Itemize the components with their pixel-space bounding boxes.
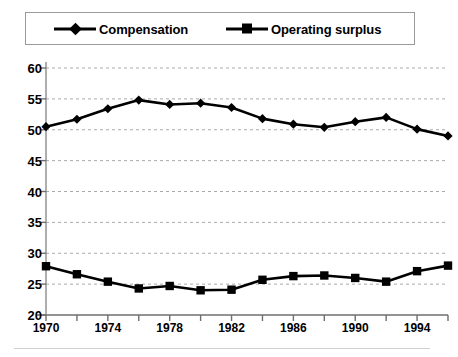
square-data-point [42, 262, 50, 270]
x-axis-label: 1990 [342, 321, 369, 335]
y-axis-label: 35 [8, 215, 42, 230]
x-axis-label: 1986 [280, 321, 307, 335]
square-data-point [289, 272, 297, 280]
square-data-point [351, 274, 359, 282]
bottom-divider [14, 348, 430, 349]
y-axis-label: 40 [8, 184, 42, 199]
line-chart-canvas [0, 0, 458, 357]
square-data-point [104, 277, 112, 285]
diamond-data-point [165, 100, 174, 109]
square-data-point [73, 270, 81, 278]
y-axis-label: 30 [8, 246, 42, 261]
diamond-data-point [320, 123, 329, 132]
square-data-point [258, 276, 266, 284]
square-data-point [135, 284, 143, 292]
diamond-data-point [196, 99, 205, 108]
diamond-data-point [134, 96, 143, 105]
diamond-data-point [103, 104, 112, 113]
diamond-data-point [72, 115, 81, 124]
diamond-data-point [382, 113, 391, 122]
x-axis-label: 1978 [156, 321, 183, 335]
diamond-data-point [443, 131, 452, 140]
x-axis-label: 1974 [94, 321, 121, 335]
square-data-point [444, 261, 452, 269]
square-data-point [382, 277, 390, 285]
square-data-point [165, 282, 173, 290]
square-data-point [320, 271, 328, 279]
y-axis-label: 55 [8, 91, 42, 106]
diamond-data-point [289, 120, 298, 129]
diamond-data-point [258, 114, 267, 123]
square-data-point [413, 267, 421, 275]
y-axis-label: 50 [8, 122, 42, 137]
x-axis-label: 1994 [404, 321, 431, 335]
y-axis-tick-labels: 605550454035302520 [4, 0, 42, 357]
chart-plot-area: 605550454035302520 197019741978198219861… [0, 0, 458, 357]
square-data-point [196, 286, 204, 294]
diamond-data-point [351, 117, 360, 126]
diamond-data-point [227, 103, 236, 112]
square-data-point [227, 285, 235, 293]
x-axis-tick-labels: 1970197419781982198619901994 [0, 321, 458, 341]
y-axis-label: 60 [8, 61, 42, 76]
y-axis-label: 45 [8, 153, 42, 168]
x-axis-label: 1982 [218, 321, 245, 335]
x-axis-label: 1970 [33, 321, 60, 335]
y-axis-label: 25 [8, 277, 42, 292]
diamond-data-point [412, 125, 421, 134]
